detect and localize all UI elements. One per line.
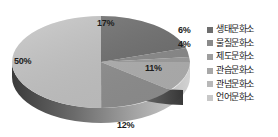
legend-item-4: 관념문화소 (207, 77, 278, 91)
legend-label: 언어문화소 (216, 93, 254, 102)
pie-label-물질문화소: 6% (178, 26, 191, 35)
legend-label: 물질문화소 (216, 39, 254, 48)
legend-label: 생태문화소 (216, 25, 254, 34)
pie-label-제도문화소: 4% (178, 40, 191, 49)
legend-item-5: 언어문화소 (207, 91, 278, 105)
legend-swatch-icon (207, 40, 213, 46)
legend-label: 관념문화소 (216, 80, 254, 89)
legend-label: 제도문화소 (216, 52, 254, 61)
legend-swatch-icon (207, 27, 213, 33)
legend-item-3: 관습문화소 (207, 64, 278, 78)
legend-swatch-icon (207, 68, 213, 74)
legend-swatch-icon (207, 81, 213, 87)
pie-label-관념문화소: 12% (117, 121, 134, 130)
legend-swatch-icon (207, 95, 213, 101)
legend-item-2: 제도문화소 (207, 50, 278, 64)
legend-swatch-icon (207, 54, 213, 60)
legend-label: 관습문화소 (216, 66, 254, 75)
pie-label-관습문화소: 11% (145, 64, 162, 73)
pie-chart-figure: 17% 6% 4% 11% 12% 50% 생태문화소 물질문화소 제도문화소 … (0, 0, 278, 137)
legend-item-0: 생태문화소 (207, 23, 278, 37)
pie-chart-plot-area: 17% 6% 4% 11% 12% 50% (0, 0, 200, 137)
chart-legend: 생태문화소 물질문화소 제도문화소 관습문화소 관념문화소 언어문화소 (207, 23, 278, 105)
pie-label-생태문화소: 17% (97, 19, 114, 28)
legend-item-1: 물질문화소 (207, 37, 278, 51)
pie-slices (12, 16, 190, 108)
pie-label-언어문화소: 50% (14, 57, 31, 66)
